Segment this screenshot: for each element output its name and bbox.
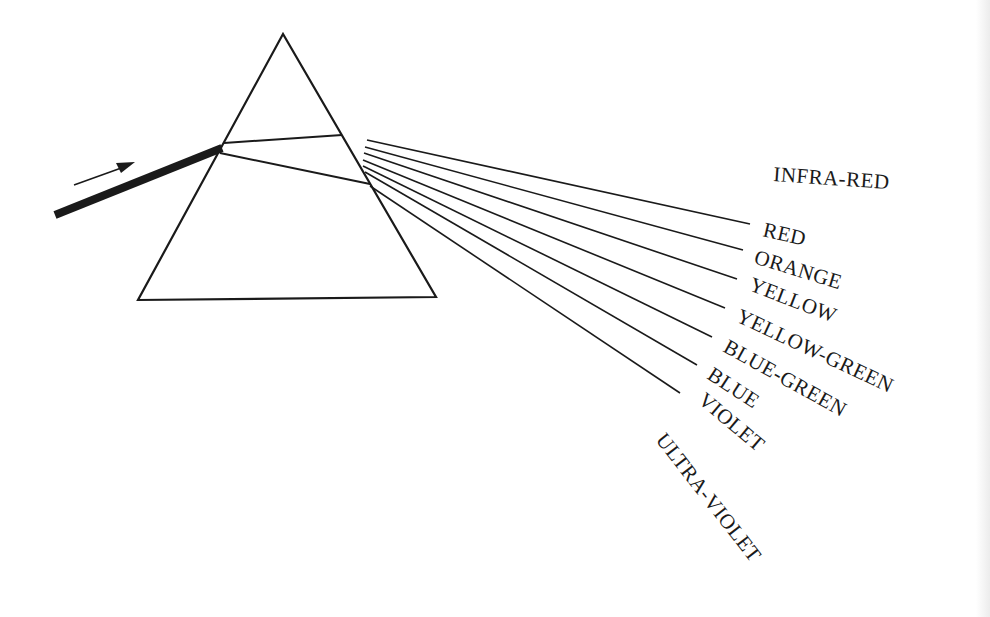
label-red: RED: [761, 217, 809, 250]
ray-red: [367, 140, 750, 224]
spectrum-rays: [363, 140, 750, 393]
arrow-right-icon: [74, 162, 135, 185]
prism-diagram: INFRA-RED RED ORANGE YELLOW YELLOW-GREEN…: [0, 0, 990, 617]
ray-orange: [365, 147, 743, 250]
internal-ray-lower: [220, 153, 370, 184]
internal-ray-upper: [224, 135, 342, 143]
label-infra-red: INFRA-RED: [773, 162, 891, 194]
ray-blue-green-a: [363, 166, 712, 337]
incident-light-beam: [55, 148, 222, 215]
ray-yellow-green: [363, 160, 725, 308]
ray-blue: [370, 186, 680, 393]
ray-yellow: [364, 153, 737, 279]
